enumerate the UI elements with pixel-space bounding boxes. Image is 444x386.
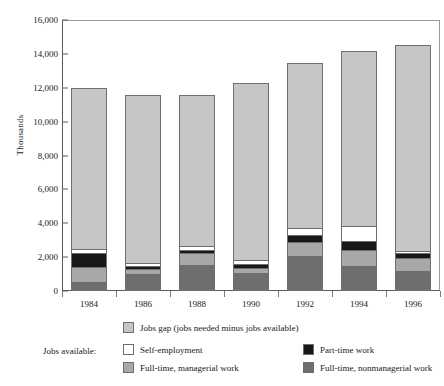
legend-swatch-self-employment xyxy=(123,344,134,355)
y-tick-label: 6,000 xyxy=(0,185,58,194)
x-tick-mark xyxy=(62,291,63,297)
x-tick-label: 1986 xyxy=(113,299,173,309)
legend-label-jobs-gap: Jobs gap (jobs needed minus jobs availab… xyxy=(140,323,298,333)
legend-swatch-full-time-managerial xyxy=(123,362,134,373)
y-tick-mark xyxy=(62,20,68,21)
x-tick-label: 1990 xyxy=(221,299,281,309)
y-tick-label: 16,000 xyxy=(0,16,58,25)
bar-segment xyxy=(342,52,376,226)
bar-segment xyxy=(342,266,376,290)
bar-segment xyxy=(288,228,322,235)
legend-item-self-employment: Self-employment xyxy=(123,344,203,355)
x-tick-label: 1994 xyxy=(329,299,389,309)
y-tick-label: 2,000 xyxy=(0,253,58,262)
bar-segment xyxy=(288,64,322,228)
x-tick-mark xyxy=(278,291,279,297)
bar-segment xyxy=(72,267,106,282)
y-tick-label: 4,000 xyxy=(0,219,58,228)
legend-item-full-time-nonmanagerial: Full-time, nonmanagerial work xyxy=(303,362,432,373)
bar-segment xyxy=(72,282,106,290)
legend-item-full-time-managerial: Full-time, managerial work xyxy=(123,362,239,373)
bar-1992 xyxy=(287,63,323,291)
bar-segment xyxy=(180,265,214,290)
bar-segment xyxy=(234,84,268,260)
x-tick-mark xyxy=(332,291,333,297)
bar-segment xyxy=(396,46,430,251)
bar-1990 xyxy=(233,83,269,291)
stacked-bar-chart: Thousands 16,00014,00012,00010,0008,0006… xyxy=(0,0,444,386)
y-tick-mark xyxy=(62,257,68,258)
bar-segment xyxy=(396,271,430,290)
y-tick-mark xyxy=(62,189,68,190)
bar-1996 xyxy=(395,45,431,291)
x-tick-label: 1984 xyxy=(59,299,119,309)
x-tick-label: 1996 xyxy=(383,299,443,309)
y-tick-mark xyxy=(62,87,68,88)
y-tick-mark xyxy=(62,121,68,122)
x-tick-label: 1988 xyxy=(167,299,227,309)
bar-1984 xyxy=(71,88,107,291)
legend-item-part-time: Part-time work xyxy=(303,344,374,355)
bar-segment xyxy=(126,274,160,290)
y-tick-mark xyxy=(62,155,68,156)
legend-label-full-time-nonmanagerial: Full-time, nonmanagerial work xyxy=(320,363,432,373)
x-tick-mark xyxy=(440,291,441,297)
y-axis-title: Thousands xyxy=(15,75,25,195)
legend-label-self-employment: Self-employment xyxy=(140,345,203,355)
legend-swatch-full-time-nonmanagerial xyxy=(303,362,314,373)
legend-label-part-time: Part-time work xyxy=(320,345,374,355)
x-tick-mark xyxy=(386,291,387,297)
bar-segment xyxy=(72,89,106,249)
y-tick-mark xyxy=(62,53,68,54)
bar-segment xyxy=(396,258,430,270)
bar-segment xyxy=(342,226,376,241)
bar-segment xyxy=(234,273,268,290)
bar-segment xyxy=(342,250,376,265)
y-tick-label: 0 xyxy=(0,287,58,296)
bar-segment xyxy=(180,253,214,265)
x-tick-mark xyxy=(116,291,117,297)
bar-segment xyxy=(288,235,322,243)
legend-swatch-jobs-gap xyxy=(123,322,134,333)
bar-segment xyxy=(126,96,160,264)
y-tick-mark xyxy=(62,223,68,224)
bar-segment xyxy=(342,241,376,251)
bar-segment xyxy=(288,242,322,255)
bar-segment xyxy=(288,256,322,290)
bar-1994 xyxy=(341,51,377,291)
legend-swatch-part-time xyxy=(303,344,314,355)
y-tick-label: 14,000 xyxy=(0,49,58,58)
bar-1988 xyxy=(179,95,215,291)
bar-segment xyxy=(72,253,106,266)
y-tick-label: 8,000 xyxy=(0,151,58,160)
y-tick-label: 10,000 xyxy=(0,117,58,126)
bar-1986 xyxy=(125,95,161,291)
x-tick-label: 1992 xyxy=(275,299,335,309)
x-tick-mark xyxy=(170,291,171,297)
legend-item-jobs-gap: Jobs gap (jobs needed minus jobs availab… xyxy=(123,322,298,333)
bar-segment xyxy=(180,96,214,246)
x-tick-mark xyxy=(224,291,225,297)
y-tick-label: 12,000 xyxy=(0,83,58,92)
legend-group-label-jobs-available: Jobs available: xyxy=(43,346,96,356)
legend-label-full-time-managerial: Full-time, managerial work xyxy=(140,363,239,373)
